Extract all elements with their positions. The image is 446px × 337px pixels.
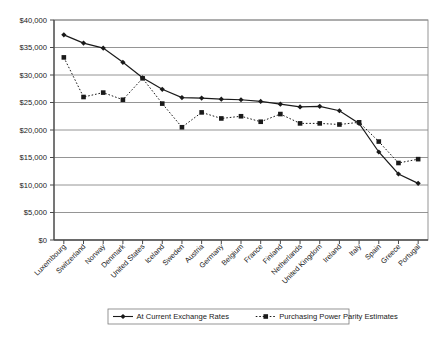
x-axis-tick-label: Belgium [220, 242, 245, 267]
data-point [239, 114, 244, 119]
data-point [317, 121, 322, 126]
data-point [101, 90, 106, 95]
y-axis-tick-label: $10,000 [20, 181, 47, 190]
x-axis-tick-label: Ireland [321, 242, 343, 264]
data-point [416, 157, 421, 162]
y-axis-tick-label: $20,000 [20, 126, 47, 135]
data-point [140, 76, 145, 81]
y-axis-tick-label: $0 [39, 236, 47, 245]
data-point [180, 125, 185, 130]
y-axis-tick-label: $40,000 [20, 16, 47, 25]
data-point [160, 101, 165, 106]
chart-legend: At Current Exchange RatesPurchasing Powe… [108, 309, 398, 324]
data-point [278, 112, 283, 117]
data-point [199, 110, 204, 115]
y-axis-tick-label: $5,000 [24, 208, 47, 217]
x-axis-tick-label: Italy [347, 242, 363, 258]
data-point [337, 122, 342, 127]
x-axis-labels: LuxembourgSwitzerlandNorwayDenmarkUnited… [32, 241, 422, 285]
legend-label: At Current Exchange Rates [137, 312, 230, 321]
chart-container: $0$5,000$10,000$15,000$20,000$25,000$30,… [0, 0, 446, 337]
y-axis-tick-label: $30,000 [20, 71, 47, 80]
data-point [219, 116, 224, 121]
x-axis-tick-label: Portugal [396, 242, 422, 268]
data-point [62, 55, 67, 60]
x-axis-tick-label: France [242, 242, 265, 265]
data-point [121, 97, 126, 102]
y-axis-tick-label: $15,000 [20, 153, 47, 162]
legend-label: Purchasing Power Parity Estimates [279, 312, 398, 321]
y-axis-tick-label: $35,000 [20, 43, 47, 52]
data-point [357, 120, 362, 125]
data-point [396, 161, 401, 166]
y-axis-labels: $0$5,000$10,000$15,000$20,000$25,000$30,… [20, 16, 47, 245]
data-point [298, 121, 303, 126]
line-chart: $0$5,000$10,000$15,000$20,000$25,000$30,… [0, 0, 446, 337]
data-point [258, 119, 263, 124]
data-point [81, 95, 86, 100]
x-axis-tick-label: Sweden [161, 242, 186, 267]
data-point [376, 139, 381, 144]
y-axis-tick-label: $25,000 [20, 98, 47, 107]
legend-marker [263, 314, 268, 319]
